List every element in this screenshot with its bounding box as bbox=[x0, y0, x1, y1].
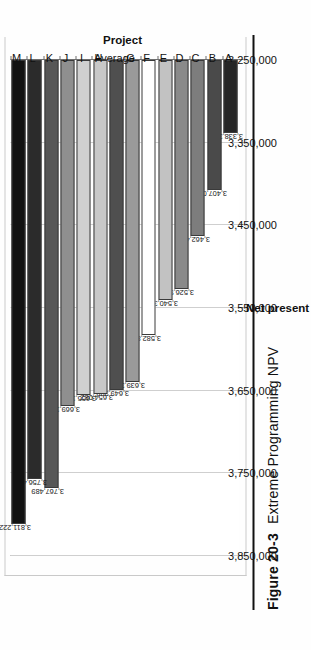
caption-rule bbox=[252, 35, 254, 610]
bar bbox=[60, 60, 74, 406]
figure-title: Extreme Programming NPV bbox=[264, 347, 280, 524]
figure-caption: Figure 20-3Extreme Programming NPV bbox=[252, 35, 302, 610]
bar bbox=[223, 60, 237, 133]
bar bbox=[174, 60, 188, 289]
value-axis-tick-label: 3,750,000 bbox=[219, 467, 285, 479]
bar bbox=[76, 60, 90, 395]
bar bbox=[109, 60, 123, 390]
value-axis-tick-label: 3,450,000 bbox=[219, 219, 285, 231]
gridline bbox=[10, 555, 238, 556]
value-axis-tick-label: 3,850,000 bbox=[219, 550, 285, 562]
bar bbox=[93, 60, 107, 394]
bar bbox=[125, 60, 139, 382]
bar bbox=[207, 60, 221, 190]
bar-value-label: 3,811,222 bbox=[0, 522, 31, 531]
bar bbox=[44, 60, 58, 488]
bar bbox=[141, 60, 155, 335]
category-tick-mark bbox=[10, 56, 11, 60]
rotated-figure-stage: Figure 20-3Extreme Programming NPV 3,250… bbox=[0, 0, 311, 650]
bar bbox=[190, 60, 204, 236]
value-axis-title: Net present value ($) bbox=[242, 302, 311, 314]
bar bbox=[27, 60, 41, 479]
bar bbox=[158, 60, 172, 300]
bar-value-label: 3,767,489 bbox=[31, 486, 63, 495]
value-axis-tick-label: 3,650,000 bbox=[219, 385, 285, 397]
chart-area: Figure 20-3Extreme Programming NPV 3,250… bbox=[0, 0, 311, 650]
category-axis-title: Project bbox=[97, 34, 147, 46]
bar bbox=[11, 60, 25, 524]
category-tick-label: M bbox=[0, 52, 46, 64]
figure-number: Figure 20-3 bbox=[264, 533, 280, 610]
